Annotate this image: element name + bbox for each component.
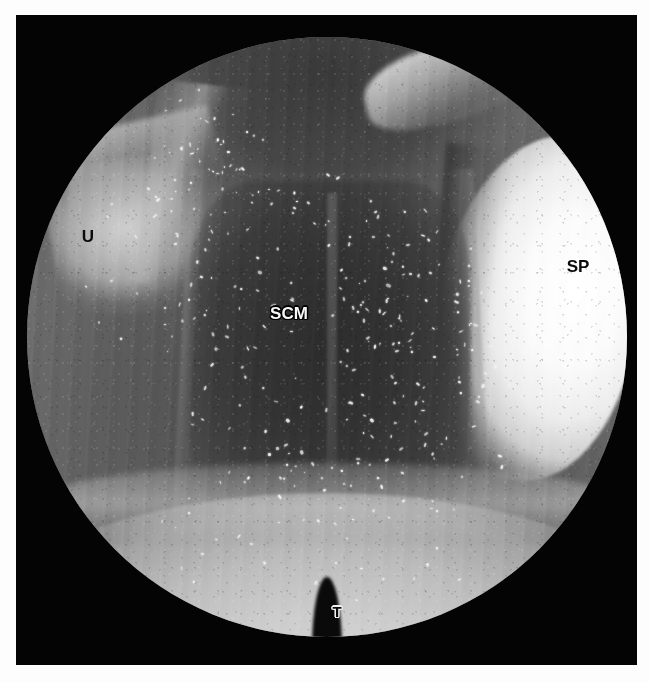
photographic-plate: USPSCMT: [16, 15, 637, 665]
label-tongue: T: [332, 604, 341, 619]
endoscopic-field-of-view: [27, 37, 627, 637]
label-soft-palate: SP: [567, 258, 590, 275]
mucosal-grain: [27, 37, 627, 637]
figure-root: USPSCMT: [0, 0, 649, 683]
label-superior-constrictor-muscle: SCM: [270, 305, 308, 322]
label-uvula: U: [82, 228, 94, 245]
